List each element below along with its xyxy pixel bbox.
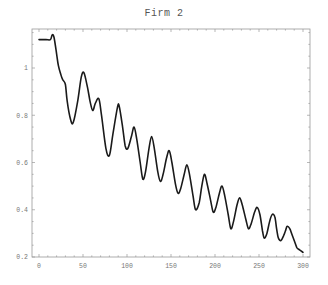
- plot-frame: [32, 29, 310, 257]
- chart-container: Firm 2 050100150200250300 0.20.40.60.81: [0, 0, 328, 285]
- y-tick-label: 0.4: [16, 207, 28, 214]
- x-tick-label: 50: [79, 263, 87, 270]
- x-tick-label: 150: [165, 263, 177, 270]
- y-axis-tick-labels: 0.20.40.60.81: [16, 65, 28, 261]
- x-tick-label: 250: [253, 263, 265, 270]
- y-tick-label: 0.2: [16, 254, 28, 261]
- x-tick-label: 0: [37, 263, 41, 270]
- x-axis-tick-labels: 050100150200250300: [37, 263, 309, 270]
- x-tick-label: 100: [121, 263, 133, 270]
- y-tick-label: 0.8: [16, 113, 28, 120]
- y-tick-label: 1: [24, 65, 28, 72]
- x-tick-label: 200: [209, 263, 221, 270]
- axis-ticks: [32, 29, 310, 257]
- x-tick-label: 300: [297, 263, 309, 270]
- line-plot: 050100150200250300 0.20.40.60.81: [0, 0, 328, 285]
- y-tick-label: 0.6: [16, 160, 28, 167]
- firm-2-series-line: [39, 35, 303, 253]
